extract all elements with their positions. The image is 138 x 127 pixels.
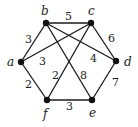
vertex-label-b: b <box>41 4 49 18</box>
weighted-graph-diagram: 3567323428 abcdef <box>0 0 138 127</box>
edge-weight-b-d: 4 <box>90 52 97 65</box>
vertex-label-c: c <box>88 4 95 18</box>
edge-weight-f-a: 2 <box>25 78 32 91</box>
edge-weight-e-f: 3 <box>66 100 73 113</box>
vertex-f <box>44 97 50 103</box>
vertex-b <box>43 20 49 26</box>
vertex-e <box>89 97 95 103</box>
vertex-label-e: e <box>89 106 96 120</box>
vertex-d <box>113 58 119 64</box>
edges-group <box>21 23 116 100</box>
vertex-c <box>88 20 94 26</box>
edge-weight-a-b: 3 <box>25 33 32 46</box>
edge-weight-b-e: 8 <box>80 69 87 82</box>
edge-weight-c-f: 2 <box>52 69 59 82</box>
edge-weight-a-c: 3 <box>39 55 46 68</box>
edge-weight-c-d: 6 <box>108 32 115 45</box>
vertex-label-a: a <box>7 55 14 69</box>
edge-weights-group: 3567323428 <box>25 10 119 113</box>
edge-weight-b-c: 5 <box>65 10 72 23</box>
vertex-a <box>18 59 24 65</box>
vertex-label-f: f <box>42 107 50 121</box>
edge-weight-d-e: 7 <box>112 76 119 89</box>
vertex-label-d: d <box>124 55 132 69</box>
